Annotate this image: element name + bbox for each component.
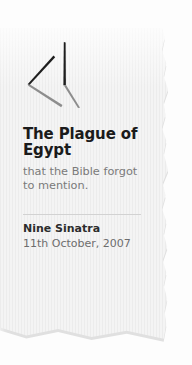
article-subtitle: that the Bible forgot to mention. <box>23 165 147 193</box>
abstract-quill-strokes-mark-icon <box>23 36 85 108</box>
publish-date: 11th October, 2007 <box>23 237 131 251</box>
page-title: The Plague of Egypt <box>23 127 145 158</box>
divider <box>23 214 141 215</box>
author-name: Nine Sinatra <box>23 222 100 236</box>
torn-paper-card: The Plague of Egypt that the Bible forgo… <box>0 28 178 353</box>
